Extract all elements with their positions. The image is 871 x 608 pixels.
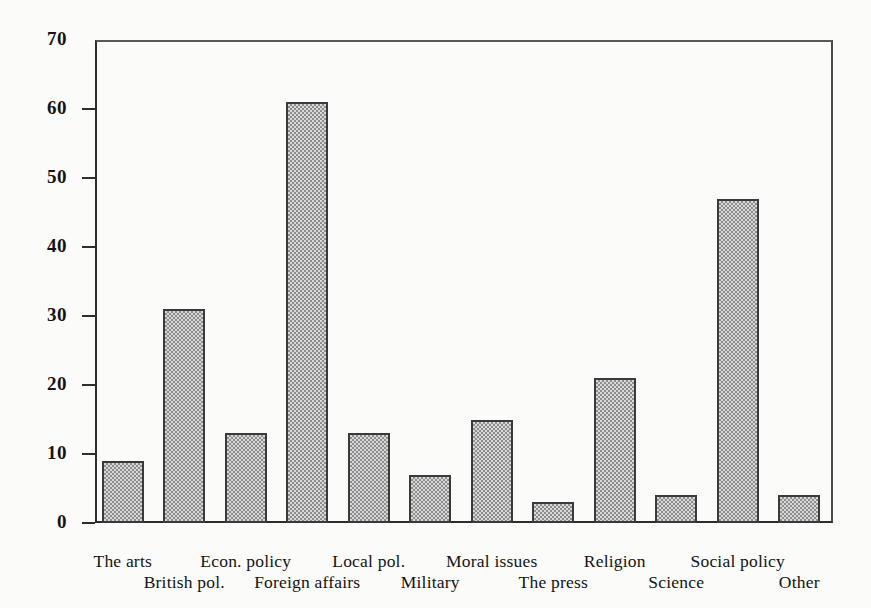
y-axis-tick-label: 70 bbox=[47, 28, 67, 50]
bar bbox=[286, 102, 328, 523]
y-axis-tick-label: 10 bbox=[47, 442, 67, 464]
x-axis-label: Local pol. bbox=[332, 551, 405, 572]
x-axis-label: Foreign affairs bbox=[254, 572, 360, 593]
y-axis-tick-label: 30 bbox=[47, 304, 67, 326]
bar bbox=[717, 199, 759, 523]
chart-page: 010203040506070 The artsBritish pol.Econ… bbox=[0, 0, 871, 608]
y-axis-tick-mark bbox=[82, 315, 95, 317]
bar-series bbox=[95, 40, 833, 523]
y-axis-tick-label: 50 bbox=[47, 166, 67, 188]
x-axis-label: Military bbox=[401, 572, 460, 593]
y-axis-tick-label: 60 bbox=[47, 97, 67, 119]
y-axis-tick-mark bbox=[82, 246, 95, 248]
bar bbox=[655, 495, 697, 523]
bar bbox=[163, 309, 205, 523]
x-axis-label: The press bbox=[519, 572, 588, 593]
y-axis-tick-mark bbox=[82, 177, 95, 179]
bar bbox=[348, 433, 390, 523]
x-axis-label: Econ. policy bbox=[200, 551, 291, 572]
x-axis-label: British pol. bbox=[144, 572, 225, 593]
x-axis-label: Science bbox=[648, 572, 704, 593]
bar bbox=[594, 378, 636, 523]
y-axis-tick-label: 40 bbox=[47, 235, 67, 257]
x-axis-label: Moral issues bbox=[446, 551, 537, 572]
y-axis-tick-label: 20 bbox=[47, 373, 67, 395]
bar bbox=[102, 461, 144, 523]
x-axis-label: The arts bbox=[94, 551, 152, 572]
bar bbox=[532, 502, 574, 523]
bar bbox=[225, 433, 267, 523]
y-axis: 010203040506070 bbox=[0, 40, 95, 523]
bar bbox=[409, 475, 451, 523]
y-axis-tick-mark bbox=[82, 108, 95, 110]
x-axis-label: Religion bbox=[584, 551, 646, 572]
y-axis-tick-mark bbox=[82, 384, 95, 386]
y-axis-tick-mark bbox=[82, 453, 95, 455]
bar bbox=[471, 420, 513, 524]
x-axis-label: Other bbox=[779, 572, 820, 593]
x-axis-label: Social policy bbox=[691, 551, 785, 572]
bar bbox=[778, 495, 820, 523]
x-axis-labels: The artsBritish pol.Econ. policyForeign … bbox=[0, 523, 871, 608]
